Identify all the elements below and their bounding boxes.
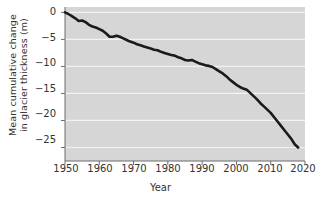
x-tick-marks — [65, 161, 305, 165]
y-tick-marks — [61, 12, 65, 147]
plot-svg — [0, 0, 321, 207]
glacier-thickness-chart: Mean cumulative change in glacier thickn… — [0, 0, 321, 207]
